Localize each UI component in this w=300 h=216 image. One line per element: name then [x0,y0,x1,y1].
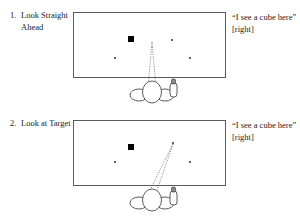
panel-1-head [143,81,162,103]
panel-2-observer-figure [130,187,177,211]
panel-look-straight-ahead: 1. Look Straight Ahead “I see a cube her… [0,0,300,108]
panel-2-cube-icon [128,144,134,150]
panel-2-gaze-lines [147,144,173,196]
panel-2-pointer-icon [170,187,177,205]
panel-2-dot-lower-right [189,161,191,163]
panel-1-dot-left [114,57,116,59]
figure-container: 1. Look Straight Ahead “I see a cube her… [0,0,300,216]
panel-1-dot-lower-right [189,57,191,59]
panel-1-cube-icon [128,36,134,42]
panel-1-graphics [0,0,300,108]
panel-2-graphics [0,108,300,216]
panel-1-pointer-icon [170,79,177,97]
panel-2-head [143,189,162,211]
panel-2-dot-left [114,161,116,163]
panel-2-dot-target-upper-right [172,142,174,144]
panel-1-dot-upper-right [171,39,173,41]
panel-1-observer-figure [130,79,177,103]
panel-look-at-target: 2. Look at Target “I see a cube here” [r… [0,108,300,216]
